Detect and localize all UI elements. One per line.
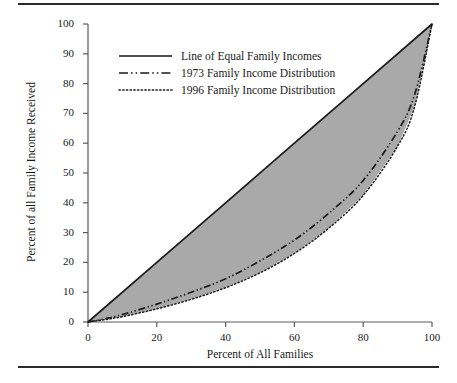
y-axis-title: Percent of all Family Income Received <box>25 77 37 267</box>
x-tick-label: 0 <box>73 332 103 343</box>
legend-item: Line of Equal Family Incomes <box>118 47 335 64</box>
legend-item-label: 1996 Family Income Distribution <box>181 84 335 96</box>
lorenz-curve-figure: 0102030405060708090100 020406080100 Perc… <box>0 0 457 383</box>
y-tick-label: 60 <box>46 137 74 148</box>
legend-item-label: Line of Equal Family Incomes <box>181 50 322 62</box>
legend-item: 1996 Family Income Distribution <box>118 81 335 98</box>
y-tick-label: 50 <box>46 167 74 178</box>
y-tick-label: 10 <box>46 286 74 297</box>
legend-line-sample <box>118 50 173 62</box>
legend-item-label: 1973 Family Income Distribution <box>181 67 335 79</box>
legend-line-sample <box>118 67 173 79</box>
x-tick-label: 60 <box>279 332 309 343</box>
x-axis-title: Percent of All Families <box>88 348 432 360</box>
y-tick-label: 0 <box>46 316 74 327</box>
x-tick-label: 20 <box>142 332 172 343</box>
y-tick-label: 70 <box>46 107 74 118</box>
x-axis-tick-marks <box>88 322 432 327</box>
x-tick-label: 40 <box>211 332 241 343</box>
y-tick-label: 40 <box>46 197 74 208</box>
legend-item: 1973 Family Income Distribution <box>118 64 335 81</box>
y-axis-tick-marks <box>83 24 88 322</box>
x-tick-label: 80 <box>348 332 378 343</box>
y-tick-label: 80 <box>46 78 74 89</box>
x-tick-label: 100 <box>417 332 447 343</box>
y-tick-label: 90 <box>46 48 74 59</box>
chart-legend: Line of Equal Family Incomes1973 Family … <box>118 47 335 98</box>
y-tick-label: 30 <box>46 227 74 238</box>
y-tick-label: 100 <box>46 18 74 29</box>
legend-line-sample <box>118 84 173 96</box>
y-tick-label: 20 <box>46 256 74 267</box>
